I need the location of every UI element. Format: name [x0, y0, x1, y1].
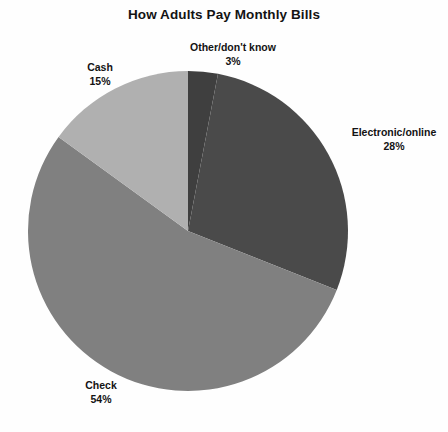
slice-label-other-value: 3% — [190, 55, 276, 69]
slice-label-electronic-name: Electronic/online — [352, 126, 437, 138]
slice-label-cash-name: Cash — [87, 61, 113, 73]
slice-label-electronic: Electronic/online 28% — [352, 126, 437, 154]
slice-label-electronic-value: 28% — [352, 140, 437, 154]
pie-chart-figure: How Adults Pay Monthly Bills Other/don't… — [0, 0, 448, 432]
slice-label-cash: Cash 15% — [87, 61, 113, 89]
slice-label-check-value: 54% — [85, 393, 117, 407]
pie-slices-group — [28, 71, 348, 391]
slice-label-check-name: Check — [85, 379, 117, 391]
slice-label-cash-value: 15% — [87, 75, 113, 89]
slice-label-other-name: Other/don't know — [190, 41, 276, 53]
slice-label-check: Check 54% — [85, 379, 117, 407]
slice-label-other: Other/don't know 3% — [190, 41, 276, 69]
